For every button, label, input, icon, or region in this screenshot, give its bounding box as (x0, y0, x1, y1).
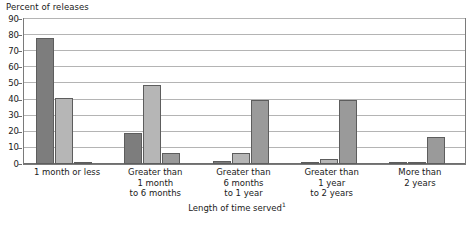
x-category-label-line: to 1 year (199, 188, 287, 199)
x-axis-category-labels: 1 month or lessGreater than1 monthto 6 m… (23, 167, 466, 203)
bar-cat2-series0 (213, 161, 231, 164)
bar-cat3-series1 (320, 159, 338, 164)
y-tick-mark-90 (18, 19, 22, 20)
bar-cat1-series2 (162, 153, 180, 164)
x-category-label-3: Greater than1 yearto 2 years (288, 167, 376, 199)
bar-cat0-series0 (36, 38, 54, 164)
x-category-label-line: 6 months (199, 178, 287, 189)
x-category-label-2: Greater than6 monthsto 1 year (199, 167, 287, 199)
y-tick-mark-40 (18, 100, 22, 101)
x-category-label-line: to 6 months (111, 188, 199, 199)
y-tick-mark-70 (18, 51, 22, 52)
bar-series-layer (24, 19, 465, 164)
x-category-label-line: 1 month (111, 178, 199, 189)
bar-cat4-series1 (408, 162, 426, 164)
bar-cat1-series1 (143, 85, 161, 164)
x-axis-title: Length of time served1 (0, 203, 474, 213)
bar-cat4-series2 (427, 137, 445, 164)
bar-cat3-series2 (339, 100, 357, 164)
x-category-label-0: 1 month or less (23, 167, 111, 178)
x-category-label-line: Greater than (199, 167, 287, 178)
x-axis-title-footnote: 1 (282, 201, 286, 208)
x-category-label-line: 1 month or less (23, 167, 111, 178)
x-category-label-line: Greater than (111, 167, 199, 178)
chart-figure: Percent of releases 0102030405060708090 … (0, 0, 474, 228)
x-category-label-line: 1 year (288, 178, 376, 189)
x-category-label-line: Greater than (288, 167, 376, 178)
bar-cat1-series0 (124, 133, 142, 164)
bar-cat2-series2 (251, 100, 269, 164)
y-tick-mark-20 (18, 132, 22, 133)
bar-cat4-series0 (389, 162, 407, 164)
x-category-label-line: 2 years (376, 178, 464, 189)
bar-cat0-series1 (55, 98, 73, 164)
y-tick-mark-60 (18, 67, 22, 68)
y-tick-mark-0 (18, 164, 22, 165)
bar-cat0-series2 (74, 162, 92, 164)
x-category-label-1: Greater than1 monthto 6 months (111, 167, 199, 199)
x-category-label-4: More than2 years (376, 167, 464, 188)
y-tick-mark-80 (18, 35, 22, 36)
plot-area (23, 18, 466, 165)
y-tick-mark-30 (18, 116, 22, 117)
y-tick-mark-10 (18, 148, 22, 149)
y-axis-tick-labels: 0102030405060708090 (0, 18, 21, 165)
bar-cat3-series0 (301, 162, 319, 164)
y-axis-title: Percent of releases (6, 2, 89, 12)
x-category-label-line: More than (376, 167, 464, 178)
bar-cat2-series1 (232, 153, 250, 164)
x-axis-title-text: Length of time served (188, 203, 282, 213)
x-category-label-line: to 2 years (288, 188, 376, 199)
y-tick-mark-50 (18, 83, 22, 84)
